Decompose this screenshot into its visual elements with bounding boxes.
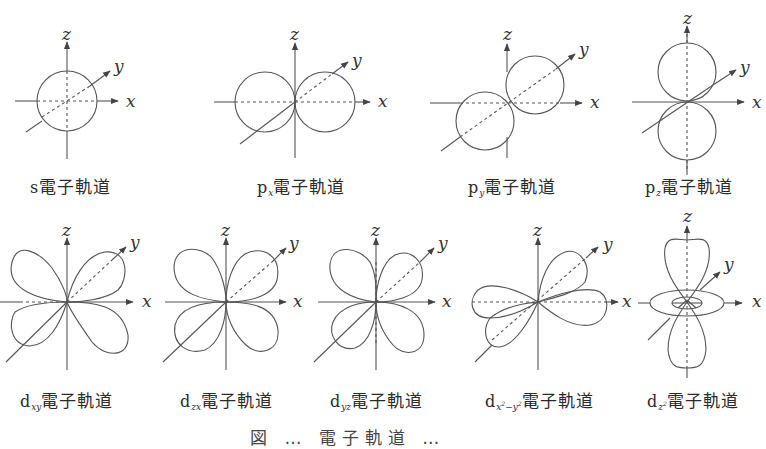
svg-text:z: z <box>61 24 72 44</box>
svg-text:x: x <box>378 91 388 111</box>
label-dyz-orbital: dyz電子軌道 <box>330 387 423 412</box>
dyz-orbital <box>314 238 435 370</box>
svg-text:y: y <box>739 57 750 77</box>
figure-caption: 図 … 電子軌道 … <box>250 424 445 449</box>
svg-text:x: x <box>442 291 452 311</box>
label-dx2y2-orbital: dx2−y2電子軌道 <box>485 387 594 412</box>
svg-text:y: y <box>437 233 448 253</box>
svg-text:x: x <box>622 291 632 311</box>
label-dz2-orbital: dz2電子軌道 <box>647 387 739 412</box>
svg-text:y: y <box>602 234 613 254</box>
label-pz-orbital: pz電子軌道 <box>645 173 733 198</box>
dxy-orbital <box>0 238 133 370</box>
s-orbital <box>15 42 118 159</box>
label-py-orbital: py電子軌道 <box>468 173 556 198</box>
label-s-orbital: s電子軌道 <box>30 173 111 198</box>
svg-text:y: y <box>578 39 589 59</box>
py-orbital <box>430 44 582 158</box>
svg-text:z: z <box>370 220 381 240</box>
svg-text:x: x <box>752 291 762 311</box>
svg-text:x: x <box>590 92 600 112</box>
svg-text:z: z <box>682 206 693 226</box>
dz2-orbital <box>638 226 742 378</box>
px-orbital <box>214 43 370 158</box>
svg-text:x: x <box>142 291 152 311</box>
svg-text:x: x <box>126 91 136 111</box>
svg-text:y: y <box>351 50 362 70</box>
svg-text:y: y <box>113 56 124 76</box>
svg-text:x: x <box>752 92 762 112</box>
dx2y2-orbital <box>472 238 618 370</box>
svg-text:z: z <box>532 220 543 240</box>
svg-text:z: z <box>682 8 693 28</box>
axis-labels: z y x z y x z y x z y x z y x z y x z y … <box>61 8 762 311</box>
svg-text:z: z <box>220 220 231 240</box>
svg-text:z: z <box>289 24 300 44</box>
svg-text:y: y <box>723 254 734 274</box>
svg-text:x: x <box>293 291 303 311</box>
label-dxy-orbital: dxy電子軌道 <box>20 387 113 412</box>
svg-text:y: y <box>288 233 299 253</box>
dzx-orbital <box>163 238 286 370</box>
svg-text:z: z <box>502 24 513 44</box>
svg-text:z: z <box>61 220 72 240</box>
label-dzx-orbital: dzx電子軌道 <box>180 387 273 412</box>
pz-orbital <box>632 26 744 175</box>
label-px-orbital: px電子軌道 <box>257 173 345 198</box>
svg-text:y: y <box>129 232 140 252</box>
